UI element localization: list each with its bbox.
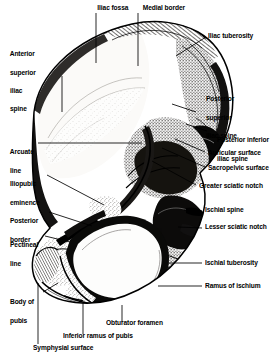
label-line: Body of [10,297,34,306]
label-ischial-spine: Ischial spine [205,205,243,214]
label-ramus-of-ischium: Ramus of ischium [205,281,260,290]
label-medial-border: Medial border [143,3,185,12]
label-line: eminence [10,198,40,207]
label-line: superior [206,113,232,122]
label-pectineal-line: Pectineal line [3,231,38,277]
label-line: pubis [10,316,27,325]
label-line: iliac [10,86,22,95]
label-obturator-foramen: Obturator foramen [106,318,163,327]
label-line: superior [10,68,36,77]
label-line: Pectineal [10,240,38,249]
label-line: Arcuate [10,147,34,156]
label-line: spine [10,104,27,113]
label-anterior-superior-iliac-spine: Anterior superior iliac spine [3,40,36,123]
label-iliac-tuberosity: Iliac tuberosity [208,31,253,40]
anatomical-illustration-figure: Iliac fossa Medial border Iliac tuberosi… [0,0,276,356]
label-line: Posterior [10,216,38,225]
label-line: Anterior [10,49,35,58]
label-ischial-tuberosity: Ischial tuberosity [205,258,258,267]
label-greater-sciatic-notch: Greater sciatic notch [199,181,263,190]
label-symphysial-surface: Symphysial surface [33,343,93,352]
label-body-of-pubis: Body of pubis [3,288,34,334]
label-inferior-ramus-of-pubis: Inferior ramus of pubis [63,331,133,340]
label-lesser-sciatic-notch: Lesser sciatic notch [205,222,267,231]
label-auricular-surface: Auricular surface [208,148,261,157]
hip-bone-diagram [0,0,276,356]
label-line: Posterior [206,94,234,103]
label-sacropelvic-surface: Sacropelvic surface [208,163,269,172]
label-line: Posterior inferior [217,135,269,144]
label-line: Iliopubic [10,179,36,188]
label-iliac-fossa: Iliac fossa [97,3,128,12]
label-line: line [10,259,21,268]
